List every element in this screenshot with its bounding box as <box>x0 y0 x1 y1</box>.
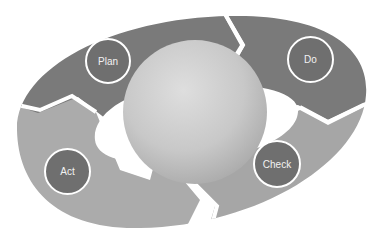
stage-badge-act: Act <box>44 148 91 195</box>
stage-label-check: Check <box>263 159 291 170</box>
stage-label-act: Act <box>60 166 74 177</box>
pdca-cycle-diagram <box>0 0 385 240</box>
stage-label-plan: Plan <box>98 56 118 67</box>
center-sphere <box>123 40 267 184</box>
stage-label-do: Do <box>304 54 317 65</box>
stage-badge-plan: Plan <box>85 38 131 84</box>
stage-badge-do: Do <box>287 36 334 83</box>
stage-badge-check: Check <box>253 140 301 188</box>
